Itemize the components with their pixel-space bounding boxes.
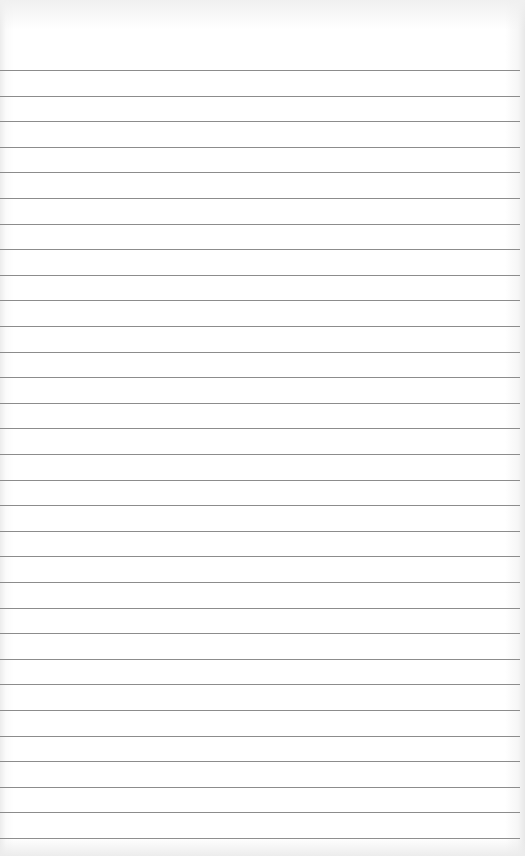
ruled-line bbox=[0, 710, 520, 711]
ruled-line bbox=[0, 147, 520, 148]
ruled-line bbox=[0, 659, 520, 660]
ruled-line bbox=[0, 505, 520, 506]
ruled-line bbox=[0, 556, 520, 557]
ruled-line bbox=[0, 96, 520, 97]
ruled-line bbox=[0, 70, 520, 71]
ruled-line bbox=[0, 428, 520, 429]
ruled-line bbox=[0, 480, 520, 481]
ruled-line bbox=[0, 300, 520, 301]
ruled-line bbox=[0, 531, 520, 532]
ruled-line bbox=[0, 377, 520, 378]
ruled-line bbox=[0, 326, 520, 327]
ruled-line bbox=[0, 787, 520, 788]
lined-paper bbox=[0, 0, 525, 856]
ruled-line bbox=[0, 608, 520, 609]
ruled-line bbox=[0, 403, 520, 404]
ruled-line bbox=[0, 352, 520, 353]
ruled-line bbox=[0, 121, 520, 122]
ruled-line bbox=[0, 761, 520, 762]
ruled-line bbox=[0, 198, 520, 199]
ruled-line bbox=[0, 454, 520, 455]
ruled-line bbox=[0, 275, 520, 276]
ruled-line bbox=[0, 172, 520, 173]
bottom-edge-shadow bbox=[0, 838, 525, 856]
ruled-line bbox=[0, 736, 520, 737]
ruled-line bbox=[0, 249, 520, 250]
ruled-line bbox=[0, 582, 520, 583]
ruled-line bbox=[0, 684, 520, 685]
ruled-line bbox=[0, 812, 520, 813]
ruled-line bbox=[0, 224, 520, 225]
top-edge-shadow bbox=[0, 0, 525, 30]
ruled-line bbox=[0, 633, 520, 634]
